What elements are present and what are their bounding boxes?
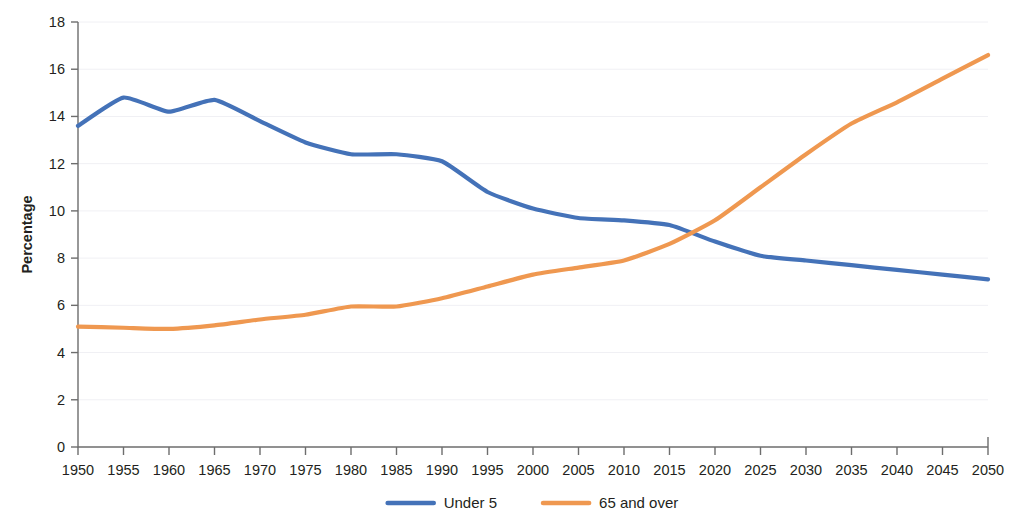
y-tick-label-6: 6 xyxy=(57,297,65,313)
y-axis-tick-labels: 024681012141618 xyxy=(49,14,65,455)
axes-group xyxy=(78,22,988,447)
y-axis-ticks xyxy=(71,22,78,447)
x-tick-label-2015: 2015 xyxy=(653,462,685,478)
series-line-65-and-over xyxy=(78,55,988,329)
y-tick-label-16: 16 xyxy=(49,61,65,77)
x-tick-label-2000: 2000 xyxy=(517,462,549,478)
axis-lines xyxy=(78,22,988,447)
gridlines-group xyxy=(78,22,988,400)
chart-figure: 024681012141618 195019551960196519701975… xyxy=(0,0,1018,528)
y-tick-label-0: 0 xyxy=(57,439,65,455)
x-tick-label-1980: 1980 xyxy=(335,462,367,478)
x-tick-label-1965: 1965 xyxy=(198,462,230,478)
line-chart-svg: 024681012141618 195019551960196519701975… xyxy=(0,0,1018,528)
x-tick-label-1990: 1990 xyxy=(426,462,458,478)
x-tick-label-2040: 2040 xyxy=(881,462,913,478)
chart-legend: Under 565 and over xyxy=(388,494,679,511)
x-tick-label-1960: 1960 xyxy=(153,462,185,478)
x-tick-label-2005: 2005 xyxy=(562,462,594,478)
y-tick-label-14: 14 xyxy=(49,108,65,124)
x-axis-ticks xyxy=(78,447,988,455)
y-tick-label-12: 12 xyxy=(49,156,65,172)
x-tick-label-1950: 1950 xyxy=(62,462,94,478)
x-tick-label-1970: 1970 xyxy=(244,462,276,478)
x-tick-label-2045: 2045 xyxy=(926,462,958,478)
legend-label-under-5: Under 5 xyxy=(444,494,497,511)
y-axis-title: Percentage xyxy=(19,195,35,273)
y-tick-label-10: 10 xyxy=(49,203,65,219)
y-tick-label-4: 4 xyxy=(57,345,65,361)
x-tick-label-2030: 2030 xyxy=(790,462,822,478)
x-tick-label-1975: 1975 xyxy=(289,462,321,478)
x-tick-label-2050: 2050 xyxy=(972,462,1004,478)
x-tick-label-1985: 1985 xyxy=(380,462,412,478)
y-tick-label-2: 2 xyxy=(57,392,65,408)
legend-label-65-and-over: 65 and over xyxy=(599,494,678,511)
x-tick-label-2020: 2020 xyxy=(699,462,731,478)
y-axis-title-group: Percentage xyxy=(19,195,35,273)
x-tick-label-1955: 1955 xyxy=(107,462,139,478)
y-tick-label-8: 8 xyxy=(57,250,65,266)
data-series-group xyxy=(78,55,988,329)
y-tick-label-18: 18 xyxy=(49,14,65,30)
x-tick-label-2035: 2035 xyxy=(835,462,867,478)
x-tick-label-2025: 2025 xyxy=(744,462,776,478)
x-tick-label-1995: 1995 xyxy=(471,462,503,478)
x-tick-label-2010: 2010 xyxy=(608,462,640,478)
x-axis-tick-labels: 1950195519601965197019751980198519901995… xyxy=(62,462,1004,478)
